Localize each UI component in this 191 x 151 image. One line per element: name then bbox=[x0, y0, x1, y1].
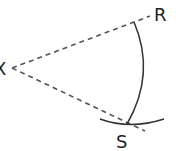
label-r: R bbox=[154, 4, 167, 25]
arc-through-s bbox=[100, 119, 164, 125]
ray-x-through-s bbox=[12, 68, 145, 131]
construction-diagram: X R S bbox=[0, 0, 191, 151]
label-s: S bbox=[116, 131, 127, 151]
label-x: X bbox=[0, 58, 6, 79]
ray-x-to-r bbox=[12, 16, 150, 68]
arc-r-to-s bbox=[127, 22, 143, 124]
